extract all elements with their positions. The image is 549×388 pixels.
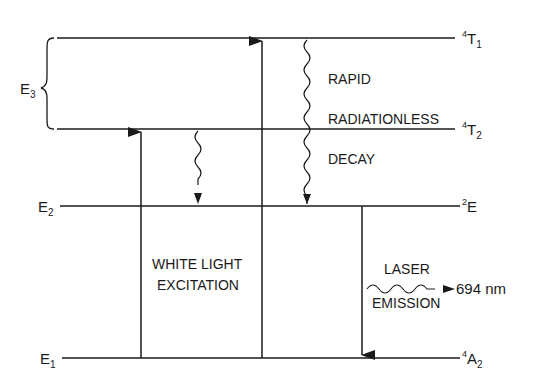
decay-text-radiationless: RADIATIONLESS	[328, 111, 439, 127]
e3-brace	[41, 38, 54, 129]
label-e1: E1	[40, 350, 56, 370]
wavelength-label: 694 nm	[456, 280, 506, 297]
label-4T2: 4T2	[462, 120, 482, 141]
wavy-decay-from-4T2	[195, 131, 201, 185]
energy-level-diagram: E3 E2 E1 4T1 4T2 2E 4A2 RAPID RADIATIONL…	[0, 0, 549, 388]
decay-text-rapid: RAPID	[328, 71, 371, 87]
label-4T1: 4T1	[462, 29, 482, 50]
label-e3: E3	[20, 80, 36, 100]
decay-arrowhead-2	[194, 193, 202, 204]
excitation-text-line1: WHITE LIGHT	[152, 256, 243, 272]
label-4A2: 4A2	[462, 349, 483, 370]
label-2E: 2E	[462, 197, 477, 215]
decay-text-decay: DECAY	[328, 151, 376, 167]
wavy-decay-from-4T1	[304, 40, 310, 204]
emission-text-emission: EMISSION	[372, 295, 440, 311]
label-e2: E2	[38, 198, 54, 218]
decay-arrowhead-1	[303, 194, 311, 204]
emitted-photon-wave	[367, 285, 435, 293]
excitation-text-line2: EXCITATION	[157, 277, 239, 293]
emission-text-laser: LASER	[384, 261, 430, 277]
photon-arrowhead	[443, 285, 455, 293]
